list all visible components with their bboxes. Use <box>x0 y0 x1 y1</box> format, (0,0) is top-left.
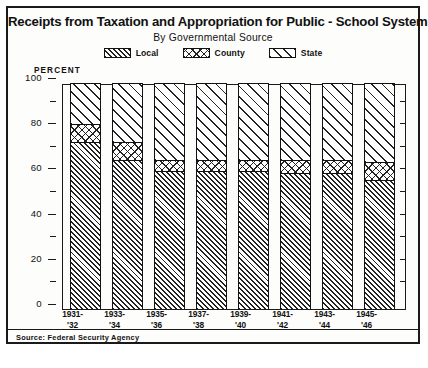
y-axis-tick-minor-30 <box>50 236 56 237</box>
legend-label-local: Local <box>136 48 159 58</box>
x-axis-label-0: 1931-'32 <box>50 309 96 330</box>
bar-segment-county <box>112 142 143 160</box>
x-axis-label-line1: 1935- <box>134 309 180 320</box>
bar-segment-local <box>196 171 227 309</box>
bar-segment-state <box>112 83 143 142</box>
bar-segment-state <box>70 83 101 124</box>
bar-segment-county <box>280 160 311 174</box>
y-axis-right-tick-40 <box>400 214 406 215</box>
y-axis-label-80: 80 <box>12 117 42 128</box>
bar-1935--36 <box>154 83 185 309</box>
x-axis-label-4: 1939-'40 <box>218 309 264 330</box>
bar-segment-county <box>238 160 269 171</box>
bar-segment-county <box>70 124 101 142</box>
plot-area <box>62 84 406 310</box>
x-axis-label-line2: '46 <box>344 320 390 331</box>
y-axis-right-tick-60 <box>400 168 406 169</box>
x-axis-label-line1: 1939- <box>218 309 264 320</box>
bar-segment-state <box>364 83 395 162</box>
x-axis-label-line1: 1931- <box>50 309 96 320</box>
x-axis-label-line2: '32 <box>50 320 96 331</box>
bar-segment-state <box>154 83 185 160</box>
bar-segment-county <box>196 160 227 171</box>
bar-1933--34 <box>112 83 143 309</box>
y-axis-right-tick-10 <box>400 281 406 282</box>
y-axis-tick-major-20 <box>48 259 56 260</box>
y-axis-right-tick-80 <box>400 123 406 124</box>
source-note: Source: Federal Security Agency <box>16 333 139 342</box>
bar-1937--38 <box>196 83 227 309</box>
y-axis-tick-major-100 <box>48 78 56 79</box>
x-axis-label-line2: '42 <box>260 320 306 331</box>
y-axis-label-20: 20 <box>12 253 42 264</box>
legend-swatch-county-icon <box>183 48 210 58</box>
legend-item-county: County <box>183 48 245 58</box>
y-axis-tick-major-60 <box>48 168 56 169</box>
legend-label-county: County <box>215 48 245 58</box>
legend-swatch-state-icon <box>269 48 296 58</box>
x-axis-label-3: 1937-'38 <box>176 309 222 330</box>
y-axis-label-60: 60 <box>12 162 42 173</box>
bar-1931--32 <box>70 83 101 309</box>
y-axis-label-0: 0 <box>12 298 42 309</box>
bar-segment-local <box>112 160 143 309</box>
x-axis-label-2: 1935-'36 <box>134 309 180 330</box>
bar-segment-state <box>322 83 353 160</box>
x-axis-label-line1: 1941- <box>260 309 306 320</box>
bar-1943--44 <box>322 83 353 309</box>
x-axis-label-6: 1943-'44 <box>302 309 348 330</box>
bar-1941--42 <box>280 83 311 309</box>
bar-segment-state <box>238 83 269 160</box>
y-axis-tick-major-0 <box>48 304 56 305</box>
x-axis-label-line2: '38 <box>176 320 222 331</box>
x-axis-label-line2: '44 <box>302 320 348 331</box>
bar-segment-local <box>364 180 395 309</box>
bar-segment-local <box>238 171 269 309</box>
y-axis-label-40: 40 <box>12 208 42 219</box>
bar-segment-local <box>280 173 311 309</box>
bar-1945--46 <box>364 83 395 309</box>
legend-swatch-local-icon <box>104 48 131 58</box>
y-axis-tick-minor-50 <box>50 191 56 192</box>
bar-segment-local <box>154 171 185 309</box>
x-axis-label-1: 1933-'34 <box>92 309 138 330</box>
bar-segment-local <box>322 173 353 309</box>
y-axis-tick-minor-90 <box>50 101 56 102</box>
y-axis-label-100: 100 <box>12 72 42 83</box>
bar-segment-state <box>196 83 227 160</box>
legend-item-state: State <box>269 48 323 58</box>
chart-title: Receipts from Taxation and Appropriation… <box>8 14 418 29</box>
x-axis-label-line2: '34 <box>92 320 138 331</box>
y-axis-right-tick-70 <box>400 146 406 147</box>
y-axis-right-tick-30 <box>400 236 406 237</box>
y-axis-tick-minor-70 <box>50 146 56 147</box>
bar-segment-county <box>322 160 353 174</box>
y-axis-right-tick-50 <box>400 191 406 192</box>
bar-segment-local <box>70 142 101 309</box>
bar-segment-state <box>280 83 311 160</box>
y-axis-right-tick-20 <box>400 259 406 260</box>
y-axis-tick-major-40 <box>48 214 56 215</box>
chart-figure: Receipts from Taxation and Appropriation… <box>6 6 420 344</box>
y-axis-tick-major-80 <box>48 123 56 124</box>
bar-1939--40 <box>238 83 269 309</box>
x-axis-label-5: 1941-'42 <box>260 309 306 330</box>
x-axis-label-7: 1945-'46 <box>344 309 390 330</box>
x-axis-label-line1: 1933- <box>92 309 138 320</box>
legend-label-state: State <box>301 48 323 58</box>
x-axis-label-line1: 1945- <box>344 309 390 320</box>
y-axis-right-tick-90 <box>400 101 406 102</box>
bar-segment-county <box>154 160 185 171</box>
x-axis-label-line2: '36 <box>134 320 180 331</box>
x-axis-label-line1: 1937- <box>176 309 222 320</box>
legend-item-local: Local <box>104 48 159 58</box>
chart-legend: Local County State <box>8 48 418 58</box>
x-axis-label-line1: 1943- <box>302 309 348 320</box>
bar-segment-county <box>364 162 395 180</box>
x-axis-label-line2: '40 <box>218 320 264 331</box>
chart-subtitle: By Governmental Source <box>8 32 418 43</box>
y-axis-tick-minor-10 <box>50 281 56 282</box>
